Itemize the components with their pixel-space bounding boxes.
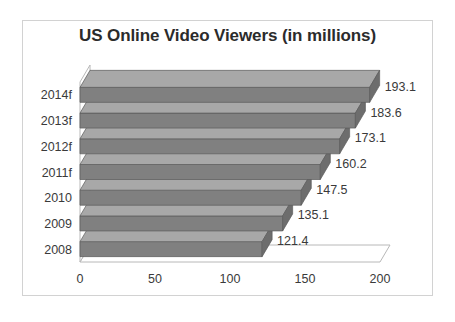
chart-bar <box>80 70 380 102</box>
chart-value-label: 183.6 <box>370 106 401 120</box>
chart-value-label: 147.5 <box>316 183 347 197</box>
chart-category-label: 2010 <box>44 191 72 205</box>
chart-value-label: 173.1 <box>355 131 386 145</box>
chart-x-tick-label: 100 <box>220 272 241 286</box>
chart-plot-area: 2008200920102011f2012f2013f2014f 121.413… <box>0 0 455 322</box>
chart-category-label: 2014f <box>41 88 73 102</box>
chart-value-label: 160.2 <box>335 157 366 171</box>
chart-x-tick-label: 200 <box>370 272 391 286</box>
chart-value-label: 121.4 <box>277 234 308 248</box>
chart-category-label: 2013f <box>41 114 73 128</box>
chart-container: US Online Video Viewers (in millions) 20… <box>0 0 455 322</box>
chart-value-label: 135.1 <box>298 208 329 222</box>
chart-category-label: 2012f <box>41 140 73 154</box>
chart-category-label: 2011f <box>42 166 73 180</box>
chart-category-label: 2008 <box>44 243 72 257</box>
chart-x-tick-label: 0 <box>77 272 84 286</box>
chart-category-label: 2009 <box>44 217 72 231</box>
chart-x-tick-label: 150 <box>295 272 316 286</box>
chart-x-axis-tick-labels: 050100150200 <box>77 272 391 286</box>
chart-x-tick-label: 50 <box>148 272 162 286</box>
chart-value-label: 193.1 <box>385 80 416 94</box>
chart-category-labels: 2008200920102011f2012f2013f2014f <box>41 88 73 256</box>
